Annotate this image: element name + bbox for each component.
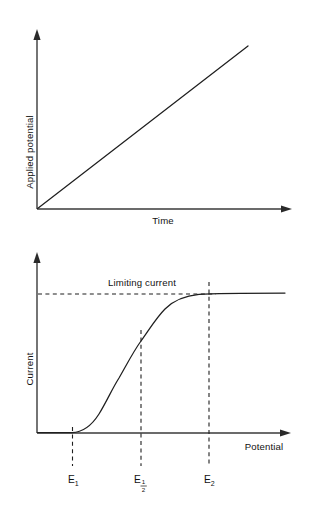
top-chart-y-axis-arrow [33, 29, 40, 40]
bottom-chart-y-axis-arrow [33, 252, 40, 263]
tick-label-e-half: E 1 2 [134, 474, 147, 493]
top-chart-panel: Applied potential Time [24, 29, 292, 226]
top-chart-ramp-line [38, 46, 248, 208]
limiting-current-label: Limiting current [108, 277, 176, 288]
tick-label-e-half-numerator: 1 [142, 478, 146, 485]
bottom-chart-x-axis-title: Potential [245, 441, 284, 452]
voltammetry-figure: Applied potential Time Limiting curre [0, 0, 318, 507]
top-chart-x-axis-title: Time [152, 215, 174, 226]
bottom-chart-panel: Limiting current Current Potential E1 E … [24, 252, 291, 493]
tick-label-e-half-base: E [134, 474, 141, 485]
figure-root: Applied potential Time Limiting curre [0, 0, 318, 507]
bottom-chart-polarogram-curve [38, 293, 286, 433]
tick-label-e1-subscript: 1 [75, 480, 79, 487]
tick-label-e2-subscript: 2 [211, 480, 215, 487]
top-chart-x-axis-arrow [281, 205, 292, 212]
tick-label-e2: E2 [204, 474, 215, 487]
top-chart-y-axis-title: Applied potential [24, 115, 35, 189]
bottom-chart-x-axis-arrow [280, 429, 291, 436]
bottom-chart-y-axis-title: Current [24, 352, 35, 385]
tick-label-e-half-denominator: 2 [142, 486, 146, 493]
tick-label-e1: E1 [68, 474, 79, 487]
